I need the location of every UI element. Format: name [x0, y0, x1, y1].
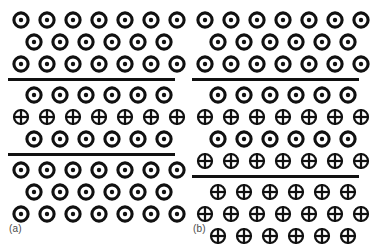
circle-with-center-dot-icon [309, 31, 335, 53]
circle-with-center-dot-icon [322, 9, 348, 31]
circle-with-cross-icon [112, 106, 138, 128]
region-middle-domain [184, 84, 368, 172]
circle-with-cross-icon [257, 225, 283, 247]
circle-with-cross-icon [244, 106, 270, 128]
domain-wall-separator [0, 75, 184, 84]
circle-with-cross-icon [348, 150, 374, 172]
circle-with-center-dot-icon [257, 31, 283, 53]
circle-with-center-dot-icon [34, 159, 60, 181]
separator-line [192, 175, 359, 178]
circle-with-cross-icon [322, 150, 348, 172]
circle-with-center-dot-icon [86, 53, 112, 75]
circle-with-cross-icon [296, 150, 322, 172]
circle-with-center-dot-icon [270, 53, 296, 75]
circle-with-center-dot-icon [125, 84, 151, 106]
symbol-row [184, 9, 368, 31]
circle-with-cross-icon [270, 150, 296, 172]
circle-with-center-dot-icon [151, 128, 177, 150]
circle-with-center-dot-icon [86, 9, 112, 31]
circle-with-center-dot-icon [205, 84, 231, 106]
circle-with-center-dot-icon [8, 203, 34, 225]
symbol-row [0, 181, 184, 203]
circle-with-center-dot-icon [99, 181, 125, 203]
domain-wall-separator [184, 75, 368, 84]
circle-with-center-dot-icon [112, 53, 138, 75]
circle-with-center-dot-icon [34, 9, 60, 31]
circle-with-cross-icon [231, 181, 257, 203]
circle-with-center-dot-icon [21, 181, 47, 203]
circle-with-cross-icon [348, 203, 374, 225]
panel-body [184, 0, 368, 247]
circle-with-center-dot-icon [335, 84, 361, 106]
circle-with-center-dot-icon [205, 31, 231, 53]
circle-with-center-dot-icon [99, 128, 125, 150]
circle-with-center-dot-icon [283, 84, 309, 106]
circle-with-center-dot-icon [257, 84, 283, 106]
circle-with-center-dot-icon [60, 203, 86, 225]
symbol-row [0, 84, 184, 106]
circle-with-cross-icon [283, 225, 309, 247]
region-upper-domain [0, 9, 184, 75]
symbol-row [184, 84, 368, 106]
circle-with-center-dot-icon [335, 31, 361, 53]
symbol-row [0, 53, 184, 75]
circle-with-cross-icon [296, 106, 322, 128]
circle-with-center-dot-icon [218, 53, 244, 75]
circle-with-center-dot-icon [322, 53, 348, 75]
circle-with-center-dot-icon [21, 84, 47, 106]
circle-with-cross-icon [322, 106, 348, 128]
circle-with-cross-icon [192, 203, 218, 225]
circle-with-center-dot-icon [218, 9, 244, 31]
circle-with-cross-icon [218, 203, 244, 225]
circle-with-center-dot-icon [34, 53, 60, 75]
circle-with-center-dot-icon [73, 84, 99, 106]
domain-wall-separator [184, 172, 368, 181]
circle-with-center-dot-icon [348, 53, 374, 75]
panel-b: (b) [184, 0, 368, 240]
region-middle-domain [0, 84, 184, 150]
circle-with-center-dot-icon [8, 53, 34, 75]
circle-with-cross-icon [192, 150, 218, 172]
circle-with-center-dot-icon [283, 31, 309, 53]
circle-with-cross-icon [283, 181, 309, 203]
symbol-row [0, 9, 184, 31]
circle-with-cross-icon [218, 106, 244, 128]
symbol-row [0, 106, 184, 128]
circle-with-cross-icon [205, 181, 231, 203]
circle-with-center-dot-icon [125, 128, 151, 150]
symbol-row [184, 150, 368, 172]
circle-with-center-dot-icon [60, 9, 86, 31]
circle-with-cross-icon [244, 150, 270, 172]
circle-with-center-dot-icon [112, 159, 138, 181]
circle-with-cross-icon [322, 203, 348, 225]
panel-body [0, 0, 184, 225]
circle-with-cross-icon [348, 106, 374, 128]
symbol-row [0, 203, 184, 225]
circle-with-center-dot-icon [335, 128, 361, 150]
circle-with-center-dot-icon [205, 128, 231, 150]
circle-with-center-dot-icon [151, 181, 177, 203]
circle-with-center-dot-icon [296, 53, 322, 75]
symbol-row [0, 159, 184, 181]
circle-with-center-dot-icon [138, 159, 164, 181]
symbol-row [184, 225, 368, 247]
circle-with-center-dot-icon [138, 9, 164, 31]
circle-with-center-dot-icon [125, 31, 151, 53]
circle-with-center-dot-icon [138, 203, 164, 225]
circle-with-cross-icon [231, 225, 257, 247]
circle-with-cross-icon [296, 203, 322, 225]
circle-with-center-dot-icon [8, 159, 34, 181]
circle-with-cross-icon [192, 106, 218, 128]
circle-with-center-dot-icon [34, 203, 60, 225]
symbol-row [184, 181, 368, 203]
circle-with-center-dot-icon [309, 84, 335, 106]
separator-line [8, 153, 175, 156]
circle-with-cross-icon [218, 150, 244, 172]
circle-with-cross-icon [34, 106, 60, 128]
domain-wall-separator [0, 150, 184, 159]
circle-with-center-dot-icon [21, 128, 47, 150]
circle-with-cross-icon [138, 106, 164, 128]
circle-with-center-dot-icon [151, 84, 177, 106]
separator-line [192, 78, 359, 81]
